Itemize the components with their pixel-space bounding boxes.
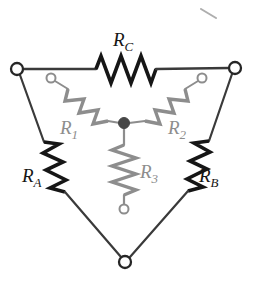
wire-left-upper	[20, 75, 44, 142]
delta-network	[20, 56, 232, 257]
wire-wye-2-lower	[129, 121, 145, 123]
label-R3-base: R	[139, 161, 152, 182]
wye-center-node	[119, 118, 130, 129]
label-R2-base: R	[167, 117, 180, 138]
label-RC-base: R	[112, 29, 125, 50]
label-R1: R1	[59, 117, 78, 142]
wire-left-lower	[65, 192, 121, 257]
label-RC: RC	[112, 29, 134, 54]
label-RA-sub: A	[33, 175, 42, 190]
circuit-svg: RA RB RC R1 R2 R3	[0, 0, 255, 287]
left-vertex-terminal[interactable]	[11, 63, 23, 75]
label-R2-sub: 2	[180, 127, 187, 142]
label-RB-sub: B	[211, 175, 219, 190]
wire-right-upper	[209, 74, 232, 141]
wire-top-right	[156, 68, 229, 69]
wye-branch-2	[129, 81, 198, 124]
label-RA: RA	[21, 165, 42, 190]
wire-wye-1-upper	[55, 81, 68, 89]
label-R3-sub: 3	[151, 171, 159, 186]
right-vertex-terminal[interactable]	[229, 62, 241, 74]
delta-left-branch	[20, 75, 121, 257]
wye-terminal-3[interactable]	[120, 205, 129, 214]
wye-branch-3	[112, 128, 136, 204]
circuit-diagram: RA RB RC R1 R2 R3	[0, 0, 255, 287]
label-RA-base: R	[21, 165, 34, 186]
scan-artifact-mark	[201, 9, 216, 18]
label-R1-sub: 1	[72, 127, 79, 142]
resistor-RA-zigzag	[43, 142, 66, 192]
label-RB-base: R	[198, 165, 211, 186]
label-RC-sub: C	[125, 39, 134, 54]
wye-terminal-1[interactable]	[47, 74, 56, 83]
wire-wye-2-upper	[185, 81, 198, 89]
wye-network	[55, 81, 198, 204]
label-R3: R3	[139, 161, 159, 186]
resistor-R3-zigzag	[112, 145, 136, 195]
resistor-RC-zigzag	[96, 56, 156, 83]
wye-terminal-2[interactable]	[198, 74, 207, 83]
bottom-vertex-terminal[interactable]	[119, 256, 131, 268]
label-R1-base: R	[59, 117, 72, 138]
wire-right-lower	[130, 191, 188, 257]
label-R2: R2	[167, 117, 187, 142]
resistor-R2-zigzag	[145, 89, 188, 124]
